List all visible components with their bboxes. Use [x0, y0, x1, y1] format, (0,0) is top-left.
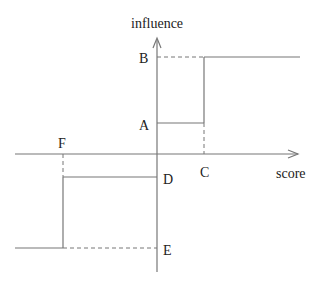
label-A: A [139, 118, 150, 133]
label-F: F [58, 136, 66, 151]
x-axis-label: score [276, 166, 306, 181]
label-E: E [163, 243, 172, 258]
y-axis-label: influence [131, 16, 183, 31]
label-B: B [139, 51, 148, 66]
influence-score-diagram: influence score B A C F D E [0, 0, 319, 290]
label-C: C [200, 165, 209, 180]
label-D: D [163, 172, 173, 187]
